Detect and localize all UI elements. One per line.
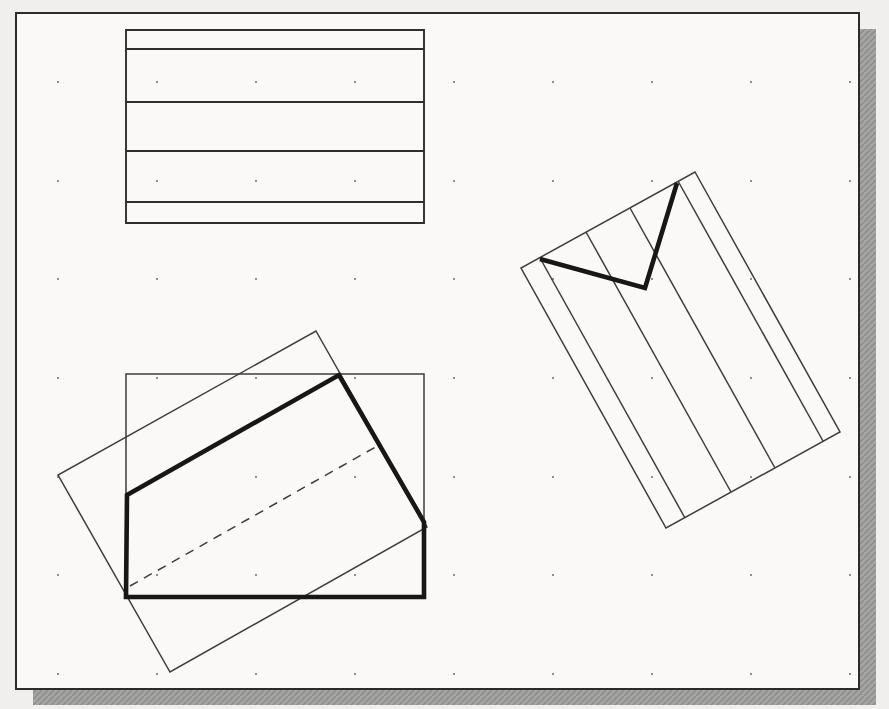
grid-dot: [255, 574, 257, 576]
grid-dot: [651, 278, 653, 280]
grid-dot: [255, 180, 257, 182]
grid-dot: [453, 574, 455, 576]
grid-dot: [57, 377, 59, 379]
grid-dot: [453, 476, 455, 478]
grid-dot: [57, 81, 59, 83]
grid-dot: [750, 278, 752, 280]
grid-dot: [651, 180, 653, 182]
grid-dot: [651, 476, 653, 478]
grid-dot: [849, 377, 851, 379]
grid-dot: [255, 377, 257, 379]
grid-dot: [255, 673, 257, 675]
grid-dot: [453, 278, 455, 280]
grid-dot: [57, 574, 59, 576]
grid-dot: [255, 476, 257, 478]
grid-dot: [552, 180, 554, 182]
grid-dot: [354, 574, 356, 576]
grid-dot: [156, 377, 158, 379]
grid-dot: [552, 81, 554, 83]
canvas-layer: [16, 13, 859, 689]
grid-dot: [57, 673, 59, 675]
drawing-canvas-figure: [0, 0, 889, 709]
grid-dot: [354, 673, 356, 675]
grid-dot: [453, 81, 455, 83]
grid-dot: [255, 278, 257, 280]
grid-dot: [651, 377, 653, 379]
grid-dot: [156, 574, 158, 576]
grid-dot: [57, 180, 59, 182]
grid-dot: [354, 476, 356, 478]
grid-dot: [156, 180, 158, 182]
grid-dot: [849, 673, 851, 675]
grid-dot: [453, 377, 455, 379]
grid-dot: [750, 574, 752, 576]
canvas-border: [16, 13, 859, 689]
grid-dot: [750, 377, 752, 379]
grid-dot: [354, 377, 356, 379]
grid-dot: [156, 278, 158, 280]
grid-dot: [750, 673, 752, 675]
grid-dot: [849, 476, 851, 478]
grid-dot: [57, 278, 59, 280]
grid-dot: [156, 81, 158, 83]
grid-dot: [552, 476, 554, 478]
grid-dot: [750, 180, 752, 182]
grid-dot: [255, 81, 257, 83]
grid-dot: [453, 180, 455, 182]
grid-dot: [651, 81, 653, 83]
grid-dot: [552, 673, 554, 675]
grid-dot: [651, 673, 653, 675]
grid-dot: [651, 574, 653, 576]
scanned-page: [0, 0, 889, 709]
grid-dot: [849, 81, 851, 83]
grid-dot: [750, 476, 752, 478]
grid-dot: [849, 278, 851, 280]
grid-dot: [552, 574, 554, 576]
grid-dot: [354, 81, 356, 83]
grid-dot: [354, 278, 356, 280]
grid-dot: [849, 574, 851, 576]
grid-dot: [354, 180, 356, 182]
grid-dot: [849, 180, 851, 182]
grid-dot: [453, 673, 455, 675]
grid-dot: [156, 673, 158, 675]
grid-dot: [750, 81, 752, 83]
grid-dot: [552, 377, 554, 379]
